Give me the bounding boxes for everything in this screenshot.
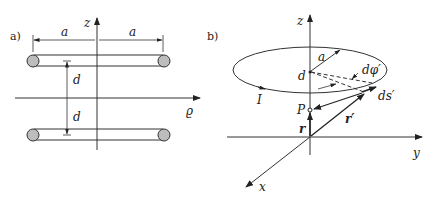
radius-label-left: a	[61, 25, 68, 39]
wire-cross-section	[158, 55, 170, 67]
panel-b-label: b)	[207, 30, 218, 43]
radius-label: a	[318, 50, 325, 64]
lower-ring	[27, 129, 170, 141]
panel-a: a) z ϱ a a	[10, 16, 200, 150]
ds-element-arrow	[362, 87, 376, 92]
panel-b: b) z y x I a d dφ′ ds′ P r	[207, 14, 422, 194]
figure: a) z ϱ a a	[0, 0, 437, 199]
wire-cross-section	[27, 55, 39, 67]
z-axis-label: z	[83, 16, 91, 30]
angle-label: dφ′	[362, 63, 381, 77]
current-label: I	[256, 93, 262, 107]
wire-cross-section	[158, 129, 170, 141]
gap-label-upper: d	[73, 73, 81, 87]
radius-arrow	[311, 50, 340, 71]
z-axis-label: z	[296, 14, 304, 28]
element-label: ds′	[378, 89, 395, 103]
wire-cross-section	[27, 129, 39, 141]
source-vector	[311, 94, 364, 136]
x-axis-label: x	[259, 180, 266, 194]
upper-ring	[27, 55, 170, 67]
angle-arrow	[352, 73, 358, 79]
source-vector-label: r′	[345, 112, 355, 126]
point-label: P	[296, 103, 306, 117]
field-point	[308, 108, 312, 112]
angle-arrow-2	[318, 84, 336, 89]
height-label: d	[298, 69, 306, 83]
panel-a-label: a)	[10, 30, 21, 43]
radius-label-right: a	[129, 25, 136, 39]
rho-axis-label: ϱ	[186, 104, 193, 118]
x-axis	[246, 137, 310, 187]
position-vector-label: r	[299, 122, 307, 136]
gap-label-lower: d	[73, 110, 81, 124]
y-axis-label: y	[412, 146, 420, 160]
